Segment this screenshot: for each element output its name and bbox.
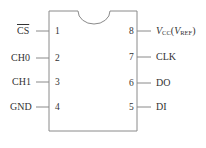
pin-7-number: 7 bbox=[129, 52, 134, 62]
pin-1-label: CS bbox=[17, 26, 29, 36]
pin-8-label-vcc-sub: CC bbox=[162, 29, 171, 36]
ic-pinout-diagram: CS CH0 CH1 GND 1 2 3 4 8 7 6 5 VCC(VREF)… bbox=[0, 0, 206, 148]
pin-3-number: 3 bbox=[55, 77, 60, 87]
pin-5-number: 5 bbox=[129, 102, 134, 112]
pin-4-label: GND bbox=[10, 102, 32, 112]
chip-outline bbox=[49, 11, 137, 131]
pin-8-label-vref-sub: REF bbox=[180, 29, 192, 36]
pin-5-label: DI bbox=[156, 102, 167, 112]
pin-8-label: VCC(VREF) bbox=[156, 26, 196, 38]
pin-6-label: DO bbox=[156, 78, 170, 88]
pin-2-label: CH0 bbox=[11, 53, 30, 63]
pin-6-number: 6 bbox=[129, 78, 134, 88]
pin-3-label: CH1 bbox=[12, 77, 31, 87]
pin-2-number: 2 bbox=[55, 53, 60, 63]
pin-8-number: 8 bbox=[129, 26, 134, 36]
pin-4-number: 4 bbox=[55, 102, 60, 112]
pin-7-label: CLK bbox=[156, 52, 176, 62]
chip-body bbox=[0, 0, 206, 148]
pin-1-number: 1 bbox=[55, 26, 60, 36]
